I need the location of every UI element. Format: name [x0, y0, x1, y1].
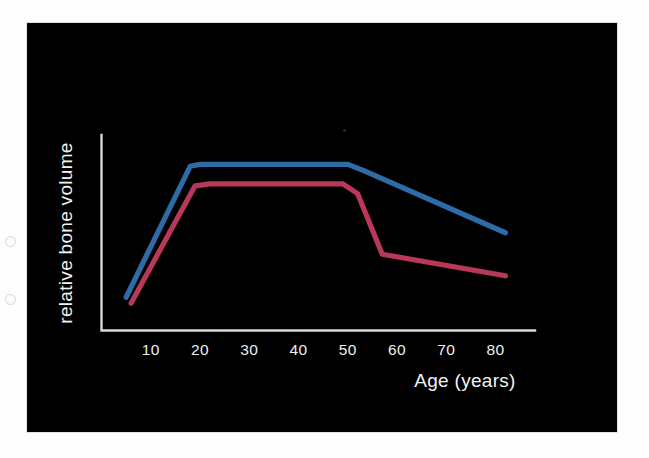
figure-panel: 1020304050607080 Age (years) relative bo…: [27, 23, 617, 432]
x-tick-label: 30: [240, 341, 258, 358]
y-axis-title: relative bone volume: [55, 142, 76, 323]
punch-hole-artifact-top: [5, 236, 16, 247]
series-line-2: [131, 184, 505, 303]
scanned-page: 1020304050607080 Age (years) relative bo…: [0, 0, 649, 458]
x-tick-label: 40: [290, 341, 308, 358]
series-layer: [126, 164, 505, 303]
x-tick-label: 60: [388, 341, 406, 358]
x-tick-label: 50: [339, 341, 357, 358]
x-tick-label: 10: [142, 341, 160, 358]
x-tick-label: 80: [487, 341, 505, 358]
x-axis-title: Age (years): [414, 370, 516, 391]
x-tick-label: 70: [437, 341, 455, 358]
bone-volume-line-chart: 1020304050607080 Age (years) relative bo…: [27, 23, 617, 432]
punch-hole-artifact-bottom: [5, 294, 16, 305]
x-tick-label-layer: 1020304050607080: [142, 341, 505, 358]
x-tick-label: 20: [191, 341, 209, 358]
